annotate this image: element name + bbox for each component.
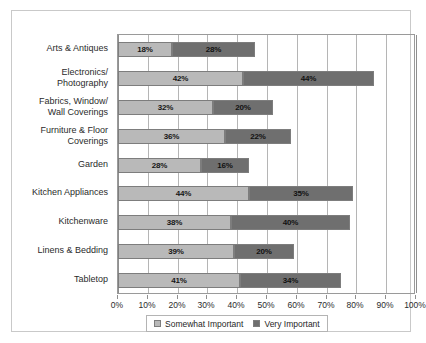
bar-value-label: 35% — [293, 190, 308, 198]
bar-value-label: 28% — [152, 162, 167, 170]
x-tick-mark — [385, 295, 386, 299]
bar-value-label: 28% — [206, 46, 221, 54]
bar-value-label: 20% — [256, 248, 271, 256]
bar-row: 32%20% — [118, 100, 414, 115]
category-label: Kitchenware — [12, 216, 108, 227]
x-tick-mark — [117, 295, 118, 299]
legend-label: Somewhat Important — [165, 319, 243, 329]
x-tick-mark — [236, 295, 237, 299]
x-tick-mark — [326, 295, 327, 299]
bar-segment-very-important: 20% — [234, 244, 294, 259]
legend-label: Very Important — [264, 319, 319, 329]
chart-frame: Arts & AntiquesElectronics/ PhotographyF… — [11, 10, 411, 332]
bar-row: 28%16% — [118, 158, 414, 173]
bar-row: 42%44% — [118, 71, 414, 86]
x-tick-label: 10% — [138, 300, 155, 310]
category-label: Electronics/ Photography — [12, 67, 108, 89]
category-label: Tabletop — [12, 274, 108, 285]
bar-segment-somewhat-important: 41% — [118, 273, 240, 288]
x-tick-mark — [296, 295, 297, 299]
bar-segment-somewhat-important: 18% — [118, 42, 172, 57]
bar-segment-somewhat-important: 44% — [118, 186, 249, 201]
legend-swatch-icon — [253, 320, 260, 327]
x-axis: 0%10%20%30%40%50%60%70%80%90%100% — [117, 295, 415, 311]
x-tick-label: 40% — [227, 300, 244, 310]
bar-value-label: 38% — [167, 219, 182, 227]
legend-item: Somewhat Important — [154, 319, 243, 329]
category-axis: Arts & AntiquesElectronics/ PhotographyF… — [12, 34, 112, 294]
bar-segment-very-important: 44% — [243, 71, 374, 86]
category-label: Linens & Bedding — [12, 245, 108, 256]
bar-value-label: 36% — [164, 133, 179, 141]
x-tick-mark — [206, 295, 207, 299]
bar-value-label: 39% — [168, 248, 183, 256]
bar-row: 41%34% — [118, 273, 414, 288]
category-label: Kitchen Appliances — [12, 187, 108, 198]
x-tick-mark — [355, 295, 356, 299]
x-tick-label: 100% — [404, 300, 426, 310]
bar-segment-very-important: 20% — [213, 100, 273, 115]
bar-value-label: 32% — [158, 104, 173, 112]
x-tick-label: 80% — [346, 300, 363, 310]
bar-value-label: 16% — [217, 162, 232, 170]
bar-segment-somewhat-important: 32% — [118, 100, 213, 115]
bar-value-label: 20% — [235, 104, 250, 112]
category-label: Furniture & Floor Coverings — [12, 125, 108, 147]
bar-segment-somewhat-important: 28% — [118, 158, 201, 173]
bar-segment-very-important: 22% — [225, 129, 291, 144]
bar-value-label: 40% — [283, 219, 298, 227]
x-tick-label: 20% — [168, 300, 185, 310]
x-tick-label: 0% — [111, 300, 123, 310]
bar-segment-very-important: 35% — [249, 186, 353, 201]
x-tick-label: 50% — [257, 300, 274, 310]
bar-segment-somewhat-important: 38% — [118, 215, 231, 230]
bar-segment-very-important: 28% — [172, 42, 255, 57]
x-tick-label: 60% — [287, 300, 304, 310]
bar-row: 18%28% — [118, 42, 414, 57]
bar-row: 36%22% — [118, 129, 414, 144]
gridline-100% — [416, 35, 417, 293]
bar-segment-very-important: 40% — [231, 215, 350, 230]
bar-value-label: 44% — [301, 75, 316, 83]
x-tick-mark — [147, 295, 148, 299]
bar-value-label: 34% — [283, 277, 298, 285]
category-label: Arts & Antiques — [12, 43, 108, 54]
x-tick-mark — [177, 295, 178, 299]
bar-segment-somewhat-important: 39% — [118, 244, 234, 259]
bar-rows: 18%28%42%44%32%20%36%22%28%16%44%35%38%4… — [118, 35, 414, 293]
category-label: Garden — [12, 159, 108, 170]
x-tick-label: 70% — [317, 300, 334, 310]
chart-legend: Somewhat ImportantVery Important — [146, 315, 328, 332]
bar-segment-very-important: 16% — [201, 158, 249, 173]
x-tick-label: 90% — [376, 300, 393, 310]
bar-row: 39%20% — [118, 244, 414, 259]
bar-value-label: 41% — [171, 277, 186, 285]
bar-value-label: 18% — [137, 46, 152, 54]
x-tick-mark — [266, 295, 267, 299]
plot-area: 18%28%42%44%32%20%36%22%28%16%44%35%38%4… — [117, 34, 415, 294]
bar-value-label: 42% — [173, 75, 188, 83]
legend-item: Very Important — [253, 319, 319, 329]
x-tick-label: 30% — [197, 300, 214, 310]
category-label: Fabrics, Window/ Wall Coverings — [12, 96, 108, 118]
x-tick-mark — [415, 295, 416, 299]
bar-segment-somewhat-important: 36% — [118, 129, 225, 144]
bar-row: 38%40% — [118, 215, 414, 230]
bar-value-label: 44% — [176, 190, 191, 198]
legend-swatch-icon — [154, 320, 161, 327]
bar-segment-somewhat-important: 42% — [118, 71, 243, 86]
bar-value-label: 22% — [250, 133, 265, 141]
bar-segment-very-important: 34% — [240, 273, 341, 288]
bar-row: 44%35% — [118, 186, 414, 201]
